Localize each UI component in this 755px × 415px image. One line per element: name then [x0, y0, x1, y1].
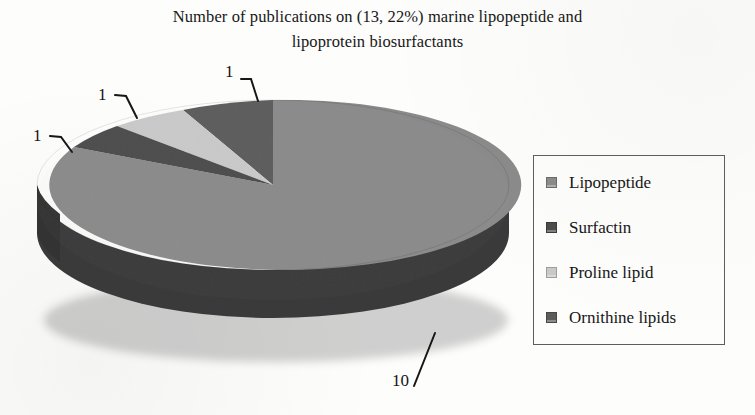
legend-swatch-icon-ornithine-lipids: [546, 312, 557, 323]
scan-grain: [37, 100, 509, 300]
legend-item-proline-lipid[interactable]: Proline lipid: [546, 258, 724, 288]
chart-legend: Lipopeptide Surfactin Proline lipid Orni…: [533, 155, 725, 345]
legend-label-proline-lipid: Proline lipid: [569, 263, 654, 282]
data-label-lipopeptide: 10: [392, 372, 409, 389]
legend-label-ornithine-lipids: Ornithine lipids: [569, 308, 676, 327]
legend-label-surfactin: Surfactin: [569, 218, 631, 237]
legend-item-lipopeptide[interactable]: Lipopeptide: [546, 168, 724, 198]
leader-line-surfactin: [50, 136, 72, 152]
legend-swatch-icon-proline-lipid: [546, 267, 557, 278]
legend-swatch-icon-surfactin: [546, 222, 557, 233]
legend-list: Lipopeptide Surfactin Proline lipid Orni…: [534, 156, 724, 344]
data-label-surfactin: 1: [33, 127, 42, 144]
data-label-proline-lipid: 1: [98, 86, 107, 103]
legend-swatch-icon-lipopeptide: [546, 177, 557, 188]
legend-item-surfactin[interactable]: Surfactin: [546, 213, 724, 243]
leader-line-proline: [115, 95, 137, 118]
leader-line-ornithine: [241, 79, 258, 101]
legend-item-ornithine-lipids[interactable]: Ornithine lipids: [546, 303, 724, 333]
legend-label-lipopeptide: Lipopeptide: [569, 173, 651, 192]
figure-container: Number of publications on (13, 22%) mari…: [0, 0, 755, 415]
data-label-ornithine-lipids: 1: [225, 63, 234, 80]
